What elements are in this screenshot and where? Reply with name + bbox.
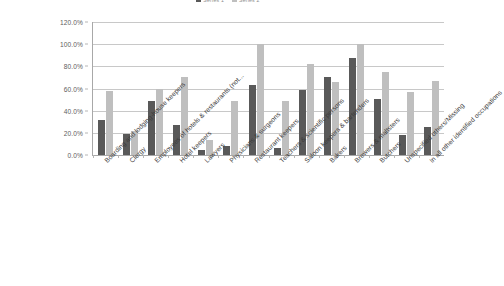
chart-title-legend-strip: Series 1Series 2 <box>0 0 456 6</box>
x-axis-category-labels: Boarding and lodging-house keepersClergy… <box>0 155 456 286</box>
bar-group <box>93 22 118 155</box>
bar-series-2 <box>106 91 113 155</box>
legend-label: Series 1 <box>203 0 224 3</box>
y-tick-label: 120.0% <box>60 19 83 26</box>
bars-layer <box>93 22 444 155</box>
bar-series-2 <box>332 82 339 155</box>
bar-series-1 <box>274 148 281 155</box>
plot-area <box>92 22 444 156</box>
y-tick-mark <box>85 132 88 133</box>
bar-series-2 <box>432 81 439 155</box>
bar-series-1 <box>98 120 105 155</box>
bar-series-2 <box>307 64 314 155</box>
bar-group <box>394 22 419 155</box>
legend-swatch-icon <box>232 0 237 2</box>
y-tick-label: 60.0% <box>64 85 83 92</box>
y-tick-label: 40.0% <box>64 107 83 114</box>
y-tick-label: 80.0% <box>64 63 83 70</box>
bar-series-2 <box>407 92 414 155</box>
y-tick-mark <box>85 44 88 45</box>
y-tick-label: 100.0% <box>60 41 83 48</box>
y-tick-mark <box>85 66 88 67</box>
legend-entry-2: Series 2 <box>232 0 260 3</box>
y-tick-mark <box>85 110 88 111</box>
y-tick-mark <box>85 88 88 89</box>
legend-entry-1: Series 1 <box>196 0 224 3</box>
y-tick-mark <box>85 22 88 23</box>
y-tick-label: 20.0% <box>64 129 83 136</box>
bar-series-2 <box>382 72 389 155</box>
bar-group <box>143 22 168 155</box>
legend-label: Series 2 <box>239 0 260 3</box>
bar-series-2 <box>231 101 238 155</box>
y-axis: 0.0%20.0%40.0%60.0%80.0%100.0%120.0% <box>46 22 88 155</box>
legend-swatch-icon <box>196 0 201 2</box>
bar-group <box>344 22 369 155</box>
